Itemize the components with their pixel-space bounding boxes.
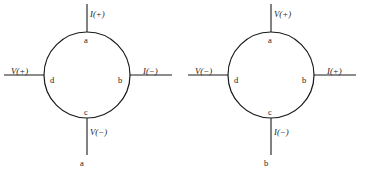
diagram-left-vector	[0, 0, 184, 177]
terminal-label-bottom: I(−)	[274, 128, 289, 137]
terminal-label-bottom: V(−)	[90, 128, 107, 137]
figure-canvas: a b c d I(+) I(−) V(−) V(+) a a b c d V(…	[0, 0, 368, 177]
node-label-top: a	[84, 36, 88, 45]
outer-endpoint-label-bottom: b	[264, 159, 268, 168]
node-label-bottom: c	[84, 108, 88, 117]
node-label-top: a	[268, 36, 272, 45]
node-label-right: b	[118, 76, 122, 85]
terminal-label-left: V(−)	[195, 67, 212, 76]
outer-endpoint-label-bottom: a	[80, 159, 84, 168]
terminal-label-right: I(+)	[327, 67, 342, 76]
node-label-left: d	[50, 76, 54, 85]
diagram-right-vector	[184, 0, 368, 177]
node-label-right: b	[302, 76, 306, 85]
terminal-label-top: V(+)	[274, 10, 291, 19]
diagram-right-configuration: a b c d V(+) I(+) I(−) V(−) b	[184, 0, 368, 177]
terminal-label-top: I(+)	[90, 10, 105, 19]
terminal-label-left: V(+)	[11, 67, 28, 76]
node-label-left: d	[234, 76, 238, 85]
node-label-bottom: c	[268, 108, 272, 117]
diagram-left-configuration: a b c d I(+) I(−) V(−) V(+) a	[0, 0, 184, 177]
terminal-label-right: I(−)	[143, 67, 158, 76]
